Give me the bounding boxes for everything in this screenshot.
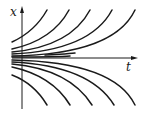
curve-lower-4 xyxy=(12,67,70,105)
x-axis-arrow-icon xyxy=(20,6,24,13)
curve-upper-2 xyxy=(12,10,69,49)
curve-upper-4 xyxy=(12,10,112,54)
integral-curves-diagram: x t xyxy=(0,0,150,115)
x-axis-label: x xyxy=(10,5,17,19)
t-axis-label: t xyxy=(126,60,131,74)
lower-curves xyxy=(12,60,135,105)
curve-lower-5 xyxy=(12,75,47,105)
t-axis-arrow-icon xyxy=(131,56,138,60)
upper-curves xyxy=(12,10,135,57)
